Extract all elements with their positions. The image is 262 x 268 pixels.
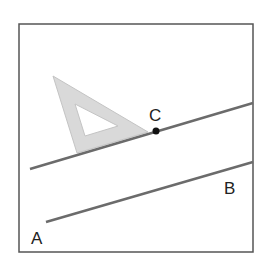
label-a: A (31, 229, 43, 248)
label-b: B (224, 179, 235, 198)
point-c (153, 128, 160, 135)
parallel-line-diagram: C B A (0, 0, 262, 268)
label-c: C (149, 106, 161, 125)
